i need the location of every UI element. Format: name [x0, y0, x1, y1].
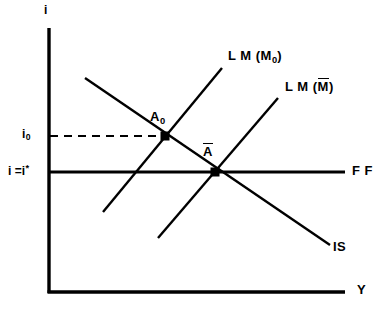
tick-label-i0: i0: [22, 128, 31, 142]
point-marker-a0: [161, 132, 170, 141]
point-label-a0-subscript: 0: [160, 116, 165, 126]
lm-mbar-label-suffix: ): [329, 79, 334, 94]
tick-label-i-star: i =i*: [8, 164, 29, 177]
point-label-abar: A: [203, 145, 213, 158]
lm-m0-label: L M (M0): [228, 49, 282, 65]
is-curve: [85, 78, 330, 245]
is-lm-ff-diagram: i Y L M (M0) L M (M) IS F F A0 A i0 i =i…: [0, 0, 386, 315]
tick-label-i-star-superscript: *: [26, 163, 30, 173]
lm-mbar-label-prefix: L M (: [285, 79, 318, 94]
y-axis-label: i: [44, 4, 48, 16]
lm-m0-label-suffix: ): [277, 48, 282, 63]
lm-m0-label-prefix: L M (: [228, 48, 261, 63]
point-label-a0-base: A: [150, 109, 160, 124]
diagram-canvas: [0, 0, 386, 315]
lm-mbar-label: L M (M): [285, 80, 334, 93]
lm-m0-label-base: M: [261, 48, 272, 63]
tick-label-i0-subscript: 0: [26, 132, 31, 142]
is-curve-label: IS: [333, 240, 346, 253]
x-axis-label: Y: [357, 283, 366, 296]
ff-curve-label: F F: [352, 164, 373, 177]
point-marker-abar: [211, 168, 220, 177]
point-label-a0: A0: [150, 110, 165, 126]
lm-mbar-label-base: M: [318, 80, 329, 93]
point-label-abar-base: A: [203, 145, 213, 158]
tick-label-i-star-prefix: i =: [8, 164, 22, 178]
